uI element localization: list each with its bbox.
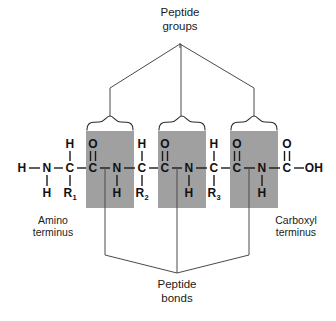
atom-oxygen-carboxyl: O <box>282 137 292 151</box>
atom-r-group-3: R3 <box>207 186 220 200</box>
atom-h-alpha-3: H <box>210 137 219 151</box>
brace-1 <box>87 116 133 130</box>
peptide-groups-connector <box>110 43 254 116</box>
peptide-groups-title-line2: groups <box>160 20 199 34</box>
carboxyl-terminus-line1: Carboxyl <box>275 214 316 226</box>
atom-c-alpha-1: C <box>66 161 75 175</box>
atom-h-n-terminal: H <box>18 161 27 175</box>
atom-r-group-1-subscript: 1 <box>73 193 77 202</box>
atom-oxygen-3: O <box>232 137 242 151</box>
peptide-group-braces <box>87 116 277 130</box>
atom-oxygen-2: O <box>160 137 170 151</box>
atom-h-alpha-1: H <box>66 137 75 151</box>
atom-oh-c-terminal: OH <box>305 161 323 175</box>
atom-n-terminal: N <box>43 161 52 175</box>
peptide-groups-title: Peptide groups <box>160 6 199 33</box>
amino-terminus-label: Amino terminus <box>33 214 73 239</box>
peptide-bonds-title: Peptide bonds <box>157 278 196 305</box>
peptide-structure-diagram: Peptide groups Peptide bonds Amino termi… <box>0 0 336 321</box>
bond-converge-left <box>105 255 177 273</box>
bond-converge-right <box>177 255 249 273</box>
atom-oxygen-1: O <box>88 137 98 151</box>
atom-n-amide-2: N <box>185 161 194 175</box>
atom-c-alpha-3: C <box>210 161 219 175</box>
atom-r-group-1: R1 <box>63 186 76 200</box>
peptide-bonds-title-line2: bonds <box>157 292 196 306</box>
peptide-bonds-title-line1: Peptide <box>157 278 196 292</box>
atom-r-group-3-subscript: 3 <box>217 193 221 202</box>
amino-terminus-line2: terminus <box>33 226 73 238</box>
amino-terminus-line1: Amino <box>33 214 73 226</box>
atom-r-group-2-subscript: 2 <box>145 193 149 202</box>
brace-2 <box>159 116 205 130</box>
atom-h-amide-2: H <box>185 186 194 200</box>
atom-h-alpha-2: H <box>138 137 147 151</box>
brace-3 <box>231 116 277 130</box>
connector-right-diagonal <box>180 44 254 88</box>
connector-left-diagonal <box>110 44 180 88</box>
atom-c-carbonyl-2: C <box>161 161 170 175</box>
atom-c-carbonyl-1: C <box>89 161 98 175</box>
atom-h-amide-3: H <box>258 186 267 200</box>
atom-h-n-terminal-lower: H <box>43 186 52 200</box>
carboxyl-terminus-label: Carboxyl terminus <box>275 214 316 239</box>
carboxyl-terminus-line2: terminus <box>275 226 316 238</box>
peptide-groups-title-line1: Peptide <box>160 6 199 20</box>
atom-h-amide-1: H <box>113 186 122 200</box>
atom-n-amide-1: N <box>113 161 122 175</box>
atom-c-alpha-2: C <box>138 161 147 175</box>
atom-n-amide-3: N <box>258 161 267 175</box>
atom-c-carboxyl: C <box>283 161 292 175</box>
atom-r-group-2: R2 <box>135 186 148 200</box>
atom-c-carbonyl-3: C <box>233 161 242 175</box>
